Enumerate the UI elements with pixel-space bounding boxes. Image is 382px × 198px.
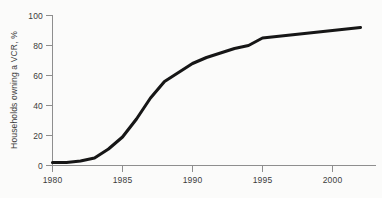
- x-tick-label-2000: 2000: [323, 175, 343, 185]
- x-tick-label-1985: 1985: [113, 175, 133, 185]
- y-tick-label-20: 20: [33, 131, 43, 141]
- x-tick-label-1995: 1995: [253, 175, 273, 185]
- chart-container: 100 80 60 40 20 0 1980 1985 1990 1995 20…: [0, 0, 382, 198]
- x-tick-label-1990: 1990: [183, 175, 203, 185]
- y-tick-label-60: 60: [33, 71, 43, 81]
- y-tick-label-0: 0: [38, 161, 43, 171]
- y-tick-label-40: 40: [33, 101, 43, 111]
- x-tick-label-1980: 1980: [43, 175, 63, 185]
- chart-background: [0, 0, 382, 198]
- y-axis-title: Households owning a VCR, %: [9, 31, 19, 149]
- y-tick-label-100: 100: [28, 11, 43, 21]
- line-chart: 100 80 60 40 20 0 1980 1985 1990 1995 20…: [0, 0, 382, 198]
- y-tick-label-80: 80: [33, 41, 43, 51]
